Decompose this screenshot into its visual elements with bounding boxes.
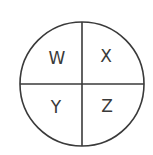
quadrant-label-bottom-right: Z bbox=[101, 96, 113, 116]
quadrant-label-top-left: W bbox=[49, 48, 66, 68]
quadrant-circle-diagram: W X Y Z bbox=[0, 0, 153, 155]
quadrant-label-top-right: X bbox=[100, 46, 112, 66]
quadrant-label-bottom-left: Y bbox=[50, 97, 62, 117]
